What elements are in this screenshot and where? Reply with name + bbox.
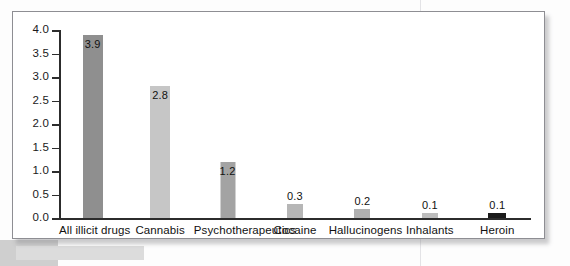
bar-chart-plot: 0.00.51.01.52.02.53.03.54.0 3.92.81.20.3… (13, 12, 546, 240)
figure-frame: 0.00.51.01.52.02.53.03.54.0 3.92.81.20.3… (12, 11, 545, 239)
y-tick-label: 3.5 (15, 47, 49, 59)
category-label: Cannabis (126, 224, 193, 236)
category-label: Psychotherapeutics (194, 224, 261, 236)
y-tick-label: 0.0 (15, 211, 49, 223)
y-tick-label: 2.5 (15, 94, 49, 106)
category-label: Hallucinogens (329, 224, 396, 236)
x-axis-category-labels: All illicit drugsCannabisPsychotherapeut… (59, 12, 531, 240)
y-tick-label: 4.0 (15, 23, 49, 35)
category-label: All illicit drugs (59, 224, 126, 236)
page-corner-tab-shadow (16, 246, 144, 260)
category-label: Cocaine (261, 224, 328, 236)
y-tick-label: 0.5 (15, 188, 49, 200)
y-tick-label: 1.0 (15, 164, 49, 176)
y-tick-label: 3.0 (15, 70, 49, 82)
y-tick-label: 1.5 (15, 141, 49, 153)
y-tick-label: 2.0 (15, 117, 49, 129)
category-label: Heroin (464, 224, 531, 236)
category-label: Inhalants (396, 224, 463, 236)
